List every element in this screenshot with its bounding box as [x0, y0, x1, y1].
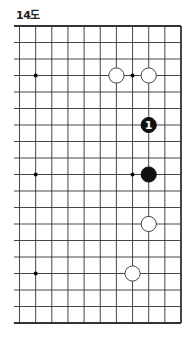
black-stone-1: 1	[141, 117, 156, 132]
white-stone	[141, 68, 156, 83]
black-stone	[141, 167, 156, 182]
star-point	[34, 173, 38, 177]
stone-move-number: 1	[145, 119, 153, 132]
star-point	[34, 272, 38, 276]
white-stone	[125, 266, 140, 281]
star-point	[131, 74, 135, 78]
white-stone	[109, 68, 124, 83]
white-stone	[141, 216, 156, 231]
star-point	[34, 74, 38, 78]
star-point	[131, 173, 135, 177]
go-board: 1	[0, 0, 193, 350]
